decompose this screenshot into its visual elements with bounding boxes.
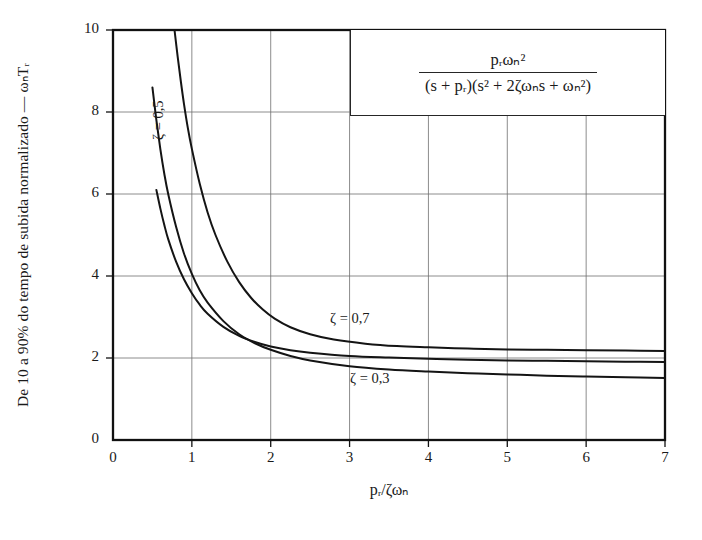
transfer-function-annotation: pᵣωₙ² (s + pᵣ)(s² + 2ζωₙs + ωₙ²)	[350, 30, 665, 116]
x-axis-label: pᵣ/ζωₙ	[113, 480, 665, 499]
transfer-function-fraction: pᵣωₙ² (s + pᵣ)(s² + 2ζωₙs + ωₙ²)	[419, 50, 597, 95]
x-tick-label: 0	[101, 449, 125, 466]
x-tick-label: 1	[180, 449, 204, 466]
curve-label-zeta-03: ζ = 0,3	[350, 370, 390, 387]
y-tick-label: 10	[73, 20, 99, 37]
x-tick-label: 3	[338, 449, 362, 466]
formula-denominator: (s + pᵣ)(s² + 2ζωₙs + ωₙ²)	[419, 72, 597, 95]
x-tick-label: 2	[259, 449, 283, 466]
x-tick-label: 6	[574, 449, 598, 466]
x-tick-label: 4	[416, 449, 440, 466]
y-tick-label: 6	[73, 184, 99, 201]
formula-numerator: pᵣωₙ²	[419, 50, 597, 71]
y-tick-label: 0	[73, 430, 99, 447]
y-tick-label: 2	[73, 348, 99, 365]
x-tick-label: 5	[495, 449, 519, 466]
curve-label-zeta-05: ζ = 0,5	[150, 100, 167, 140]
rise-time-chart-figure: De 10 a 90% do tempo de subida normaliza…	[0, 0, 702, 540]
y-tick-label: 8	[73, 102, 99, 119]
x-tick-label: 7	[653, 449, 677, 466]
curve-label-zeta-07: ζ = 0,7	[330, 310, 370, 327]
y-tick-label: 4	[73, 266, 99, 283]
